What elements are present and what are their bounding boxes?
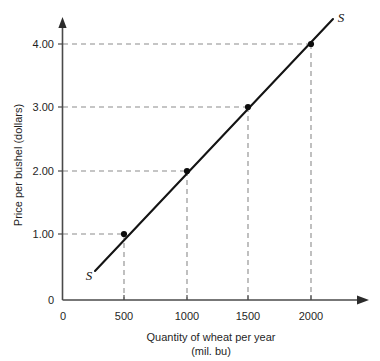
supply-label-lower: S <box>86 268 93 283</box>
x-tick-label-500: 500 <box>115 310 133 322</box>
data-point-500-1.00 <box>121 231 127 237</box>
y-tick-label-1: 1.00 <box>33 228 54 240</box>
x-tick-label-2000: 2000 <box>299 310 323 322</box>
y-tick-label-2: 2.00 <box>33 165 54 177</box>
x-axis-title-line2: (mil. bu) <box>191 345 231 357</box>
supply-curve-group <box>95 19 333 271</box>
supply-curve-line <box>95 19 333 271</box>
data-point-1000-2.00 <box>184 168 190 174</box>
x-tick-labels-group: 0 500 1000 1500 2000 <box>60 310 323 322</box>
y-tick-label-3: 3.00 <box>33 101 54 113</box>
data-point-2000-4.00 <box>308 41 314 47</box>
x-tick-label-1500: 1500 <box>236 310 260 322</box>
supply-curve-chart: 4.00 3.00 2.00 1.00 0 0 500 1000 1500 20… <box>0 0 380 361</box>
y-axis-title: Price per bushel (dollars) <box>12 104 24 226</box>
x-axis-arrow-icon <box>357 296 369 305</box>
chart-canvas: 4.00 3.00 2.00 1.00 0 0 500 1000 1500 20… <box>0 0 380 361</box>
x-tick-label-0: 0 <box>60 310 66 322</box>
y-axis-arrow-icon <box>58 17 66 28</box>
supply-label-upper: S <box>338 10 345 25</box>
x-tick-label-1000: 1000 <box>175 310 199 322</box>
curve-end-labels-group: S S <box>86 10 345 283</box>
y-tick-label-0: 0 <box>48 294 54 306</box>
y-tick-labels-group: 4.00 3.00 2.00 1.00 0 <box>33 38 54 306</box>
x-axis-title-line1: Quantity of wheat per year <box>146 331 275 343</box>
y-tick-label-4: 4.00 <box>33 38 54 50</box>
data-point-1500-3.00 <box>245 104 251 110</box>
